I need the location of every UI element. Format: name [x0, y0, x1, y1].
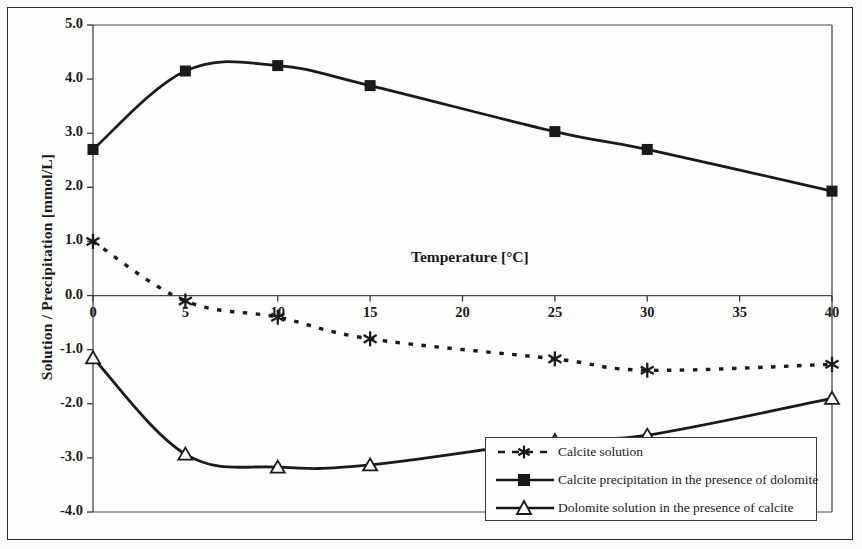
x-tick-label: 40: [812, 304, 852, 321]
x-tick-label: 5: [165, 304, 205, 321]
data-point-marker: [88, 144, 99, 155]
series-line: [93, 62, 832, 191]
data-point-marker: [825, 392, 839, 404]
legend-key-triangle-solid: [494, 498, 556, 518]
chart-legend: Calcite solution Calcite precipitation i…: [485, 437, 817, 521]
x-tick-label: 10: [258, 304, 298, 321]
y-tick-label: 1.0: [39, 231, 83, 248]
y-axis-title: Solution / Precipitation [mmol/L]: [38, 57, 56, 477]
data-point-marker: [180, 65, 191, 76]
y-tick-label: -2.0: [39, 394, 83, 411]
series-layer: [86, 60, 839, 473]
y-tick-label: 4.0: [39, 69, 83, 86]
x-tick-label: 35: [720, 304, 760, 321]
chart-page: Solution / Precipitation [mmol/L] Temper…: [0, 0, 862, 549]
y-tick-label: -1.0: [39, 340, 83, 357]
legend-key-square-solid: [494, 470, 556, 490]
y-tick-label: -4.0: [39, 502, 83, 519]
x-tick-label: 30: [627, 304, 667, 321]
legend-item-calcite-precipitation: Calcite precipitation in the presence of…: [486, 466, 816, 494]
y-tick-label: 3.0: [39, 123, 83, 140]
x-tick-label: 20: [443, 304, 483, 321]
x-tick-label: 0: [73, 304, 113, 321]
x-axis-title: Temperature [°C]: [411, 248, 529, 266]
y-tick-label: 0.0: [39, 286, 83, 303]
y-tick-label: 2.0: [39, 177, 83, 194]
chart-canvas: Solution / Precipitation [mmol/L] Temper…: [0, 0, 862, 549]
legend-key-asterisk-dashed: [494, 442, 556, 462]
legend-label: Dolomite solution in the presence of cal…: [558, 500, 793, 516]
data-point-marker: [549, 126, 560, 137]
y-tick-label: -3.0: [39, 448, 83, 465]
legend-label: Calcite precipitation in the presence of…: [558, 472, 818, 488]
data-point-marker: [548, 351, 561, 366]
data-point-marker: [642, 144, 653, 155]
legend-item-dolomite-solution: Dolomite solution in the presence of cal…: [486, 494, 816, 522]
data-point-marker: [364, 331, 377, 346]
y-tick-label: 5.0: [39, 15, 83, 32]
data-point-marker: [365, 80, 376, 91]
data-point-marker: [827, 186, 838, 197]
legend-item-calcite-solution: Calcite solution: [486, 438, 816, 466]
x-tick-label: 15: [350, 304, 390, 321]
x-tick-label: 25: [535, 304, 575, 321]
data-point-marker: [86, 351, 100, 363]
series-1: [88, 60, 838, 197]
legend-label: Calcite solution: [558, 444, 643, 460]
data-point-marker: [272, 60, 283, 71]
